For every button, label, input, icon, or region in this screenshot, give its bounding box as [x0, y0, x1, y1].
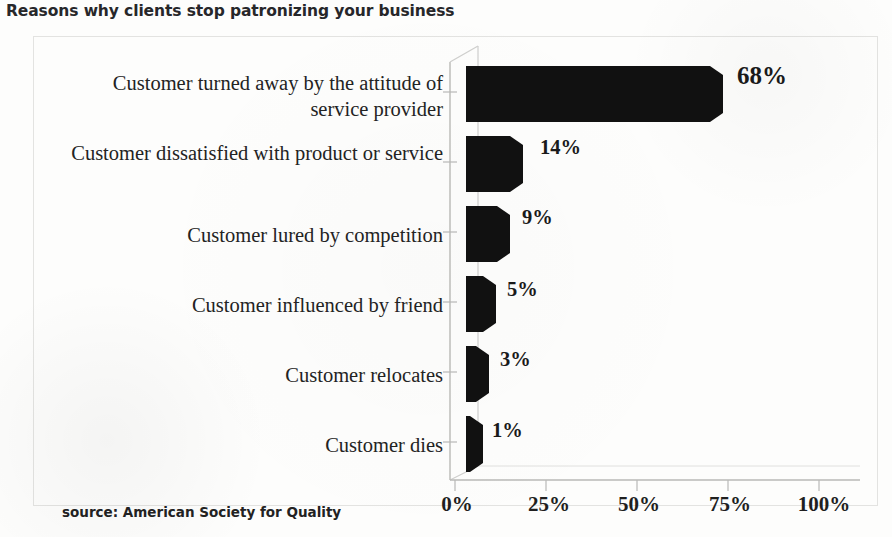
data-label-4: 3%	[500, 348, 531, 371]
bar-customer-turned-away	[466, 66, 723, 122]
data-label-5: 1%	[492, 419, 523, 442]
xtick-label-0: 0%	[441, 492, 473, 517]
xtick-label-2: 50%	[618, 492, 660, 517]
data-label-3: 5%	[507, 278, 538, 301]
bar-customer-lured	[466, 206, 510, 262]
source-note: source: American Society for Quality	[62, 504, 341, 520]
category-label-0: Customer turned away by the attitude of …	[51, 70, 443, 122]
category-label-2: Customer lured by competition	[51, 222, 443, 248]
data-label-1: 14%	[540, 136, 581, 159]
category-label-1: Customer dissatisfied with product or se…	[51, 140, 443, 166]
bar-customer-dissatisfied	[466, 136, 523, 192]
xtick-label-1: 25%	[528, 492, 570, 517]
bar-customer-relocates	[466, 346, 489, 402]
xtick-label-3: 75%	[709, 492, 751, 517]
category-label-4: Customer relocates	[51, 362, 443, 388]
bar-customer-dies	[466, 416, 483, 472]
data-label-2: 9%	[522, 206, 553, 229]
category-label-5: Customer dies	[51, 432, 443, 458]
chart-screenshot: Reasons why clients stop patronizing you…	[0, 0, 892, 537]
data-label-0: 68%	[737, 62, 787, 90]
bar-customer-influenced	[466, 276, 496, 332]
category-label-3: Customer influenced by friend	[51, 292, 443, 318]
xtick-label-4: 100%	[798, 492, 851, 517]
